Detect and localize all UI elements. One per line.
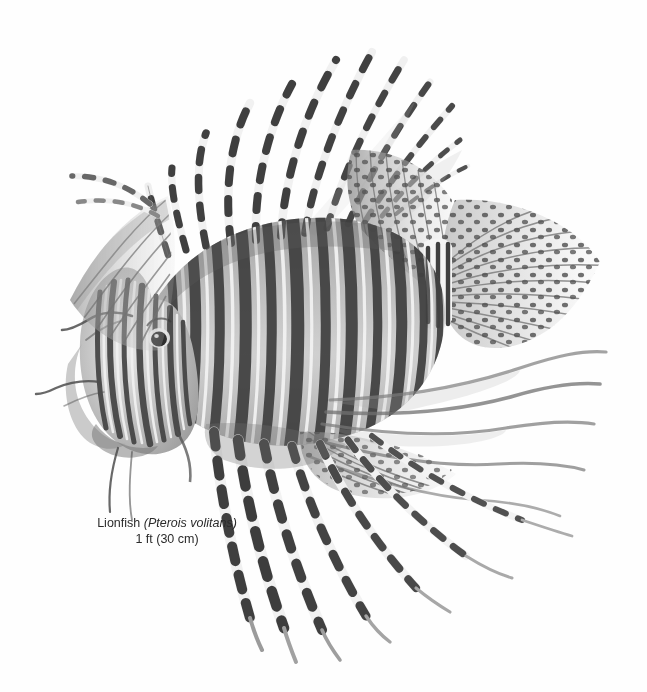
common-name: Lionfish <box>97 516 140 530</box>
size-label: 1 ft (30 cm) <box>72 532 262 547</box>
figure-caption: Lionfish (Pterois volitans) 1 ft (30 cm) <box>72 516 262 548</box>
lionfish-illustration: Lionfish illustration <box>0 0 647 692</box>
scientific-name: (Pterois volitans) <box>144 516 237 530</box>
caption-name-line: Lionfish (Pterois volitans) <box>72 516 262 531</box>
illustration-plate: Lionfish illustration <box>0 0 647 692</box>
